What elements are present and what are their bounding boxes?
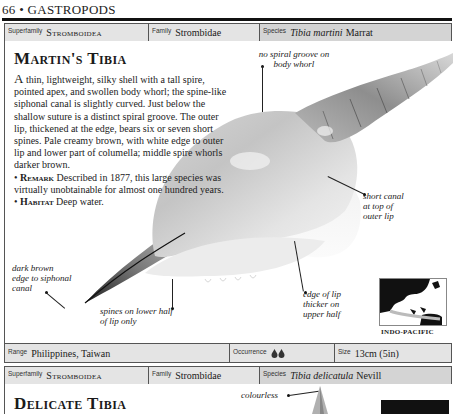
- superfamily-cell: Superfamily Stromboidea: [5, 24, 149, 41]
- annotation-leader: [262, 66, 263, 112]
- annotation-no-spiral-groove: no spiral groove on body whorl: [254, 49, 334, 69]
- species-cell: Species Tibia martini Marrat: [260, 24, 451, 41]
- taxonomy-bar: Superfamily Stromboidea Family Strombida…: [4, 366, 452, 385]
- habitat-heading: Habitat: [20, 196, 54, 207]
- taxonomy-bar: Superfamily Stromboidea Family Strombida…: [4, 23, 452, 42]
- family-value: Strombidae: [175, 27, 221, 38]
- dropcap: A: [14, 71, 23, 86]
- map-label: INDO-PACIFIC: [381, 328, 434, 336]
- map-image: [380, 279, 446, 325]
- range-label: Range: [8, 348, 27, 355]
- entry-description: A thin, lightweight, silky shell with a …: [14, 73, 229, 208]
- superfamily-value: Stromboidea: [46, 27, 102, 38]
- shell-spire-illustration: [311, 386, 329, 414]
- occurrence-droplets-icon: [271, 349, 285, 358]
- header-rule: [2, 18, 452, 21]
- occurrence-cell: Occurrence: [230, 344, 335, 362]
- species-author: Marrat: [346, 27, 373, 38]
- entry-title: Delicate Tibia: [14, 394, 126, 414]
- annotation-dot: [304, 291, 307, 294]
- annotation-dark-brown-edge: dark brown edge to siphonal canal: [12, 263, 72, 293]
- annotation-leader: [172, 279, 173, 308]
- page-header: 66 • GASTROPODS: [2, 2, 116, 18]
- species-name: Tibia martini: [290, 27, 343, 38]
- family-label: Family: [152, 370, 171, 377]
- occurrence-label: Occurrence: [233, 348, 267, 355]
- species-author: Nevill: [356, 370, 381, 381]
- superfamily-label: Superfamily: [8, 370, 42, 377]
- info-bar: Range Philippines, Taiwan Occurrence Siz…: [4, 343, 452, 363]
- range-value: Philippines, Taiwan: [31, 348, 110, 359]
- description-paragraph: A thin, lightweight, silky shell with a …: [14, 73, 229, 172]
- annotation-spines-lower-half: spines on lower half of lip only: [100, 306, 180, 326]
- remark-heading: Remark: [20, 172, 54, 183]
- habitat-text: Deep water.: [54, 196, 104, 207]
- size-cell: Size 13cm (5in): [335, 344, 451, 362]
- range-map: [379, 278, 447, 326]
- remark-paragraph: • Remark Described in 1877, this large s…: [14, 172, 229, 196]
- species-name: Tibia delicatula: [290, 370, 353, 381]
- entry-title: Martin's Tibia: [14, 49, 127, 69]
- annotation-edge-thicker: edge of lip thicker on upper half: [303, 289, 351, 319]
- range-cell: Range Philippines, Taiwan: [5, 344, 230, 362]
- annotation-colourless: colourless: [241, 390, 278, 400]
- species-label: Species: [263, 370, 286, 377]
- family-cell: Family Strombidae: [149, 367, 260, 384]
- entry-martins-tibia: Martin's Tibia A thin, lightweight, silk…: [4, 41, 452, 343]
- size-label: Size: [338, 348, 351, 355]
- range-map-partial: [381, 400, 449, 414]
- superfamily-value: Stromboidea: [46, 370, 102, 381]
- annotation-short-canal: short canal at top of outer lip: [363, 191, 408, 221]
- description-text: thin, lightweight, silky shell with a ta…: [14, 74, 226, 170]
- family-value: Strombidae: [175, 370, 221, 381]
- size-value: 13cm (5in): [355, 348, 399, 359]
- habitat-paragraph: • Habitat Deep water.: [14, 196, 229, 208]
- species-cell: Species Tibia delicatula Nevill: [260, 367, 451, 384]
- superfamily-cell: Superfamily Stromboidea: [5, 367, 149, 384]
- species-label: Species: [263, 27, 286, 34]
- superfamily-label: Superfamily: [8, 27, 42, 34]
- family-cell: Family Strombidae: [149, 24, 260, 41]
- entry-delicate-tibia: Delicate Tibia colourless: [4, 384, 452, 414]
- family-label: Family: [152, 27, 171, 34]
